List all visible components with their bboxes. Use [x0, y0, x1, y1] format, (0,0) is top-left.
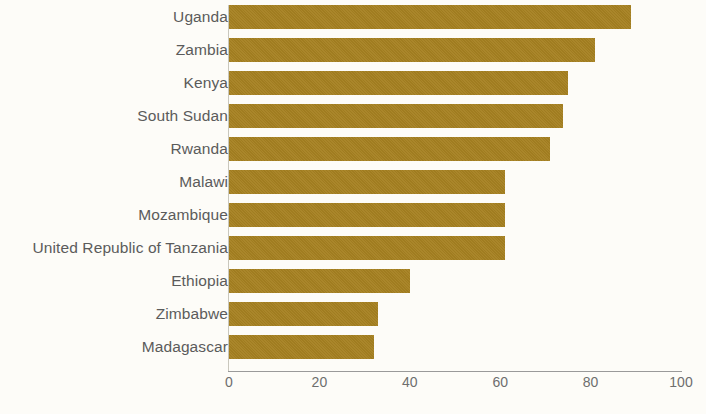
- bar-track: [229, 236, 689, 260]
- bar-row: Mozambique: [0, 203, 706, 236]
- bar-row: Uganda: [0, 5, 706, 38]
- bar-row: Ethiopia: [0, 269, 706, 302]
- bar-row: Zimbabwe: [0, 302, 706, 335]
- bar-track: [229, 137, 689, 161]
- bar: [229, 302, 378, 326]
- x-tick-label: 60: [492, 374, 508, 390]
- bar-chart: Uganda Zambia Kenya South Sudan Rwanda: [0, 0, 706, 414]
- bar: [229, 5, 631, 29]
- category-label: Malawi: [179, 170, 228, 194]
- category-label: Ethiopia: [171, 269, 228, 293]
- bar-row: Malawi: [0, 170, 706, 203]
- category-label: Mozambique: [138, 203, 228, 227]
- x-tick-label: 80: [583, 374, 599, 390]
- category-label: United Republic of Tanzania: [33, 236, 228, 260]
- bar: [229, 269, 410, 293]
- bar-track: [229, 203, 689, 227]
- bar-rows: Uganda Zambia Kenya South Sudan Rwanda: [0, 5, 706, 368]
- bar-row: Rwanda: [0, 137, 706, 170]
- bar-track: [229, 5, 689, 29]
- category-label: Rwanda: [171, 137, 228, 161]
- bar-row: Madagascar: [0, 335, 706, 368]
- bar-track: [229, 71, 689, 95]
- chart-footnote: [24, 400, 694, 414]
- bar-row: Kenya: [0, 71, 706, 104]
- x-tick-label: 20: [312, 374, 328, 390]
- x-tick-label: 0: [225, 374, 233, 390]
- bar-row: South Sudan: [0, 104, 706, 137]
- bar: [229, 335, 374, 359]
- bar: [229, 170, 505, 194]
- bar: [229, 137, 550, 161]
- bar-row: Zambia: [0, 38, 706, 71]
- bar-track: [229, 302, 689, 326]
- bar-track: [229, 38, 689, 62]
- bar-track: [229, 104, 689, 128]
- bar: [229, 203, 505, 227]
- bar-track: [229, 269, 689, 293]
- category-label: Uganda: [173, 5, 228, 29]
- category-label: Kenya: [184, 71, 228, 95]
- bar: [229, 71, 568, 95]
- x-axis-line: [228, 371, 682, 372]
- x-tick-label: 40: [402, 374, 418, 390]
- x-tick-label: 100: [669, 374, 692, 390]
- bar: [229, 38, 595, 62]
- category-label: South Sudan: [137, 104, 228, 128]
- category-label: Zimbabwe: [156, 302, 228, 326]
- x-axis-tick-labels: 020406080100: [0, 374, 706, 394]
- category-label: Zambia: [176, 38, 228, 62]
- bar: [229, 236, 505, 260]
- bar: [229, 104, 563, 128]
- category-label: Madagascar: [142, 335, 228, 359]
- bar-track: [229, 335, 689, 359]
- bar-track: [229, 170, 689, 194]
- bar-row: United Republic of Tanzania: [0, 236, 706, 269]
